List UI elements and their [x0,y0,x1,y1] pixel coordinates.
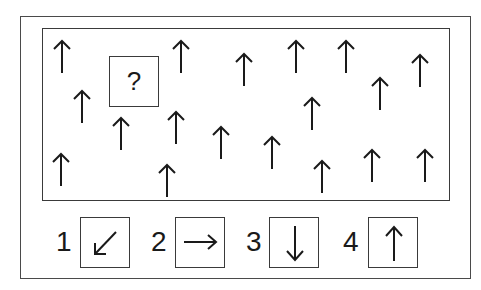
grid-arrow-up-icon [412,54,428,88]
question-mark: ? [127,66,141,97]
arrow-down-left-icon [81,218,131,269]
option-2-box[interactable] [175,217,225,268]
grid-arrow-up-icon [417,149,433,183]
grid-arrow-up-icon [304,97,320,131]
grid-arrow-up-icon [168,111,184,145]
grid-arrow-up-icon [288,40,304,74]
grid-arrow-up-icon [173,40,189,74]
grid-arrow-up-icon [54,40,70,74]
option-1-box[interactable] [80,217,130,268]
grid-arrow-up-icon [372,77,388,111]
option-3-number: 3 [246,226,262,258]
grid-arrow-up-icon [159,164,175,198]
option-2-number: 2 [151,226,167,258]
arrow-up-icon [369,218,419,269]
missing-item-box: ? [109,56,159,107]
option-4-box[interactable] [368,217,418,268]
arrow-down-icon [270,218,320,269]
grid-arrow-up-icon [213,126,229,160]
grid-arrow-up-icon [236,53,252,87]
option-1-number: 1 [56,226,72,258]
grid-arrow-up-icon [338,40,354,74]
option-3-box[interactable] [269,217,319,268]
grid-arrow-up-icon [74,90,90,124]
arrow-right-icon [176,218,226,269]
grid-arrow-up-icon [314,160,330,194]
grid-arrow-up-icon [113,117,129,151]
grid-arrow-up-icon [53,153,69,187]
grid-arrow-up-icon [264,136,280,170]
option-4-number: 4 [343,226,359,258]
grid-arrow-up-icon [364,149,380,183]
